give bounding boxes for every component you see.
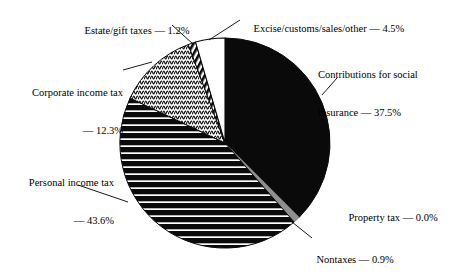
slice-label-personal-income-tax: Personal income tax — 43.6%	[2, 152, 114, 252]
slice-label-excise-text: Excise/customs/sales/other — 4.5%	[254, 23, 405, 34]
slice-label-corporate-income-tax: Corporate income tax — 12.3%	[8, 62, 123, 162]
slice-label-personal-income-tax-line2: — 43.6%	[2, 215, 114, 228]
slice-label-nontaxes-text: Nontaxes — 0.9%	[317, 254, 394, 265]
pie-chart-figure: Estate/gift taxes — 1.2% Excise/customs/…	[0, 0, 451, 278]
slice-label-corporate-income-tax-line2: — 12.3%	[8, 125, 123, 138]
slice-label-excise: Excise/customs/sales/other — 4.5%	[243, 10, 404, 48]
slice-label-contributions-line1: Contributions for social	[318, 69, 418, 82]
leader-line-corporate	[123, 62, 152, 70]
slice-label-estate-gift-taxes: Estate/gift taxes — 1.2%	[74, 12, 189, 50]
leader-line-excise	[209, 20, 240, 40]
leader-line-nontaxes	[292, 222, 312, 238]
slice-label-contributions-line2: insurance — 37.5%	[318, 107, 418, 120]
slice-label-nontaxes: Nontaxes — 0.9%	[306, 241, 394, 278]
slice-label-personal-income-tax-line1: Personal income tax	[2, 177, 114, 190]
slice-label-property-tax: Property tax — 0.0%	[338, 199, 438, 237]
slice-label-contributions: Contributions for social insurance — 37.…	[318, 44, 418, 144]
slice-label-corporate-income-tax-line1: Corporate income tax	[8, 87, 123, 100]
slice-label-estate-gift-taxes-text: Estate/gift taxes — 1.2%	[85, 25, 190, 36]
slice-label-property-tax-text: Property tax — 0.0%	[349, 212, 438, 223]
